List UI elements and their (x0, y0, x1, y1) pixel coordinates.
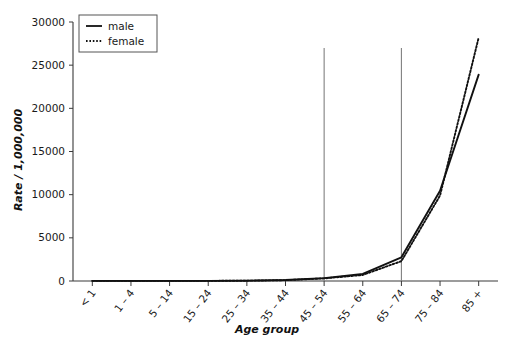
y-tick-label: 5000 (38, 231, 65, 243)
y-tick-label: 25000 (32, 59, 65, 71)
y-tick-label: 10000 (32, 188, 65, 200)
y-axis-title: Rate / 1,000,000 (12, 109, 25, 212)
legend-label-male: male (108, 20, 134, 32)
chart-container: 050001000015000200002500030000 < 11 – 45… (0, 0, 507, 349)
y-tick-label: 30000 (32, 16, 65, 28)
y-tick-label: 0 (58, 275, 65, 287)
y-tick-label: 15000 (32, 145, 65, 157)
y-tick-label: 20000 (32, 102, 65, 114)
legend-label-female: female (108, 35, 144, 47)
x-axis-title: Age group (234, 323, 299, 336)
chart-legend: male female (79, 15, 157, 52)
line-chart: 050001000015000200002500030000 < 11 – 45… (0, 0, 507, 349)
